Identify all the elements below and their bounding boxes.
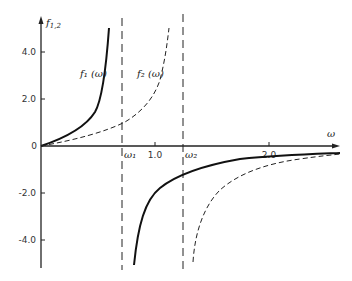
chart: 4.0 2.0 0 -2.0 -4.0 1.0 2.0 f1,2 ω ω₁ ω₂… [0, 0, 352, 281]
x-axis-label: ω [327, 128, 335, 139]
f2-lower-branch [193, 154, 340, 262]
y-tick-0: 0 [31, 141, 37, 151]
x-tick-2: 2.0 [262, 150, 277, 160]
f2-label: f₂ (ω) [136, 68, 164, 79]
f1-lower-branch [134, 153, 340, 265]
y-axis-arrow-icon [39, 16, 44, 24]
y-tick-minus-2: -2.0 [18, 188, 36, 198]
f2-upper-branch [41, 28, 169, 146]
f1-label: f₁ (ω) [79, 68, 107, 79]
f1-upper-branch [41, 28, 109, 146]
x-tick-1: 1.0 [148, 150, 163, 160]
x-axis-arrow-icon [332, 144, 340, 149]
y-tick-2: 2.0 [22, 94, 37, 104]
y-tick-4: 4.0 [22, 47, 37, 57]
omega1-label: ω₁ [124, 149, 136, 160]
y-tick-minus-4: -4.0 [18, 235, 36, 245]
y-axis-label: f1,2 [45, 17, 61, 30]
omega2-label: ω₂ [185, 149, 197, 160]
